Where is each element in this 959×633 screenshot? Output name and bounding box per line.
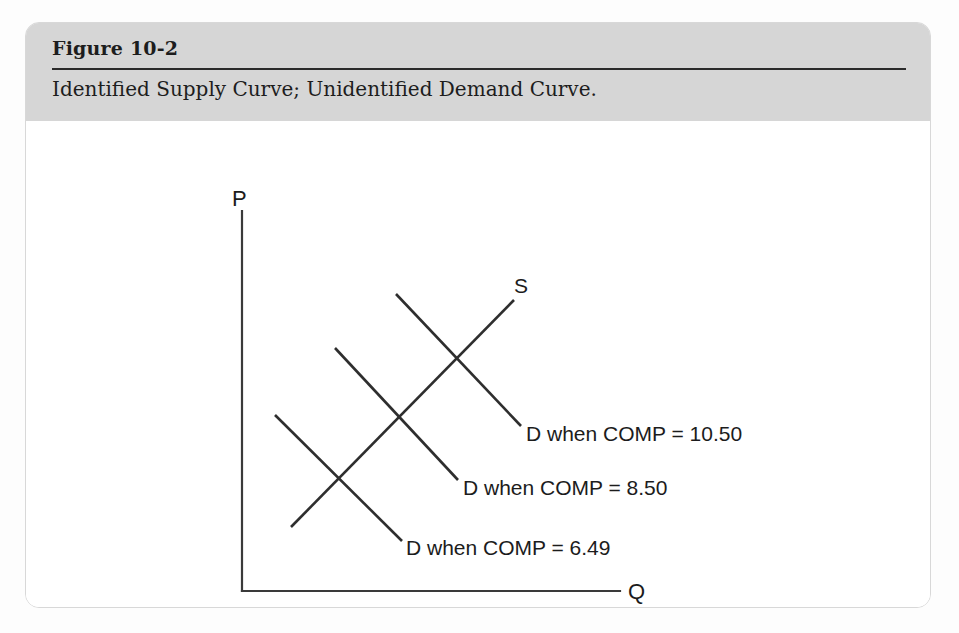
demand-curve-line-8-50 <box>335 348 458 480</box>
figure-caption: Identified Supply Curve; Unidentified De… <box>52 77 597 101</box>
x-axis-label: Q <box>628 579 645 604</box>
figure-header-band: Figure 10-2 Identified Supply Curve; Uni… <box>26 23 930 121</box>
plot-area: P Q S D when COMP = 10.50 D when COMP = … <box>26 121 931 608</box>
demand-curve-label-10-50: D when COMP = 10.50 <box>526 422 742 445</box>
header-divider <box>52 68 906 70</box>
y-axis-label: P <box>232 186 247 211</box>
figure-card: Figure 10-2 Identified Supply Curve; Uni… <box>25 22 931 608</box>
demand-curve-label-6-49: D when COMP = 6.49 <box>406 536 610 559</box>
supply-demand-diagram: P Q S D when COMP = 10.50 D when COMP = … <box>26 121 931 608</box>
supply-curve-label: S <box>514 274 528 297</box>
figure-number: Figure 10-2 <box>52 37 178 59</box>
demand-curve-label-8-50: D when COMP = 8.50 <box>463 476 667 499</box>
